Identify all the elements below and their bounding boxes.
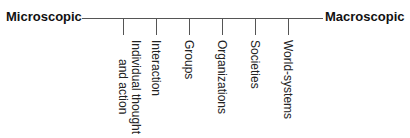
tick-individual [123, 18, 124, 35]
microscopic-label: Microscopic [6, 9, 82, 24]
level-label-interaction: Interaction [149, 40, 162, 96]
tick-world-systems [288, 18, 289, 35]
macroscopic-label: Macroscopic [325, 9, 404, 24]
level-label-groups: Groups [182, 40, 195, 79]
continuum-axis [82, 18, 323, 19]
level-label-world-systems: World-systems [281, 40, 294, 119]
tick-groups [189, 18, 190, 35]
tick-societies [255, 18, 256, 35]
tick-organizations [222, 18, 223, 35]
level-label-organizations: Organizations [215, 40, 228, 114]
level-label-societies: Societies [248, 40, 261, 89]
level-label-individual: Individual thought and action [116, 40, 142, 134]
tick-interaction [156, 18, 157, 35]
